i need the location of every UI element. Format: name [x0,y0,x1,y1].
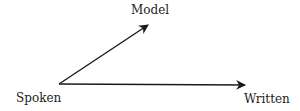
label-spoken: Spoken [16,91,61,105]
label-model: Model [131,3,169,17]
arrow-spoken-to-written [59,84,245,85]
label-written: Written [244,92,290,106]
arrow-spoken-to-model [59,25,148,84]
